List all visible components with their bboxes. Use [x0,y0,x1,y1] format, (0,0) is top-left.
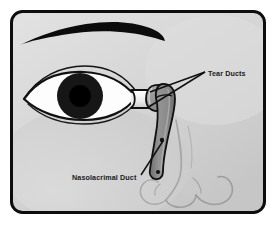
duct-marker-lower [156,170,160,174]
anatomy-diagram-canvas: Tear Ducts Nasolacrimal Duct [0,0,276,228]
label-tear-ducts: Tear Ducts [208,69,246,78]
label-nasolacrimal-duct: Nasolacrimal Duct [72,173,137,182]
diagram-root: Tear Ducts Nasolacrimal Duct [0,0,276,228]
pupil [69,85,91,107]
